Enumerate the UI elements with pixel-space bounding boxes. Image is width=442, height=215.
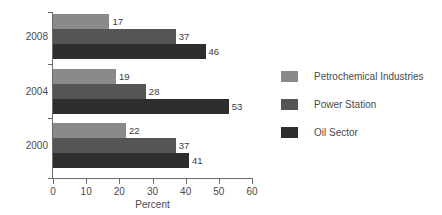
x-tick-label: 50 [213,186,224,197]
bar-value-label: 37 [179,31,190,42]
bar [53,123,126,138]
bar [53,99,229,114]
bar-chart: 0102030405060 173746192853223741 2008200… [0,0,442,215]
x-tick-label: 60 [246,186,257,197]
group-label-2008: 2008 [16,31,48,42]
x-tick [219,179,220,184]
x-tick [186,179,187,184]
legend-label: Oil Sector [314,127,358,138]
bar [53,84,146,99]
bar [53,44,206,59]
group-label-2004: 2004 [16,86,48,97]
x-tick-label: 20 [114,186,125,197]
x-tick [86,179,87,184]
legend-swatch-icon [281,127,298,138]
bar-value-label: 53 [232,101,243,112]
legend-swatch-icon [281,99,298,110]
x-tick [119,179,120,184]
x-tick-label: 30 [147,186,158,197]
legend-swatch-icon [281,71,298,82]
bar [53,69,116,84]
x-tick-label: 10 [81,186,92,197]
bar [53,153,189,168]
bar-value-label: 37 [179,140,190,151]
bar [53,138,176,153]
bar-value-label: 28 [149,86,160,97]
y-tick [48,64,53,65]
bar [53,14,109,29]
x-tick-label: 40 [180,186,191,197]
bar-value-label: 22 [129,125,140,136]
x-tick [153,179,154,184]
x-axis-title: Percent [53,199,252,210]
bar-value-label: 19 [119,71,130,82]
bar-value-label: 41 [192,155,203,166]
x-tick [53,179,54,184]
x-tick [252,179,253,184]
y-tick [48,12,53,13]
x-tick-label: 0 [50,186,56,197]
legend-item[interactable]: Oil Sector [281,118,441,146]
legend-item[interactable]: Power Station [281,90,441,118]
legend-label: Petrochemical Industries [314,71,424,82]
bar [53,29,176,44]
y-tick [48,118,53,119]
bar-value-label: 46 [209,46,220,57]
legend: Petrochemical IndustriesPower StationOil… [281,62,441,146]
bar-value-label: 17 [112,16,123,27]
legend-item[interactable]: Petrochemical Industries [281,62,441,90]
legend-label: Power Station [314,99,376,110]
group-label-2000: 2000 [16,140,48,151]
